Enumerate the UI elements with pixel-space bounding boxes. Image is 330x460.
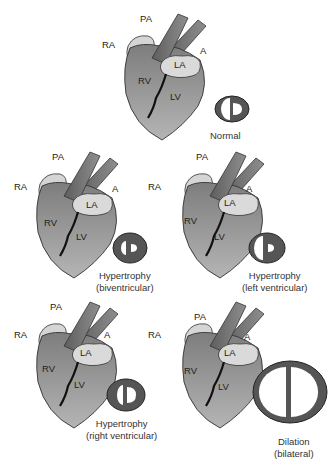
caption-biventricular: Hypertrophy(biventricular) bbox=[96, 270, 154, 294]
panel-dilation: PA RA A LA RV LV Dilation(bilateral) bbox=[170, 298, 330, 458]
cross-section-normal bbox=[212, 94, 252, 124]
heart-diagram-normal bbox=[112, 14, 222, 144]
caption-dilation: Dilation(bilateral) bbox=[274, 436, 314, 460]
cross-section-right bbox=[106, 378, 146, 412]
label-lv: LV bbox=[218, 382, 229, 392]
label-pa: PA bbox=[140, 14, 152, 24]
label-a: A bbox=[244, 332, 250, 342]
label-a: A bbox=[104, 330, 110, 340]
label-lv: LV bbox=[76, 232, 87, 242]
label-lv: LV bbox=[170, 92, 181, 102]
caption-left: Hypertrophy(left ventricular) bbox=[242, 270, 307, 294]
label-pa: PA bbox=[50, 302, 62, 312]
label-lv: LV bbox=[74, 380, 85, 390]
caption-right: Hypertrophy(right ventricular) bbox=[86, 418, 157, 442]
label-rv: RV bbox=[184, 366, 197, 376]
panel-hypertrophy-biventricular: PA RA A LA RV LV Hypertrophy(biventricul… bbox=[24, 148, 174, 288]
label-la: LA bbox=[86, 200, 98, 210]
label-la: LA bbox=[174, 60, 186, 70]
label-la: LA bbox=[224, 348, 236, 358]
label-rv: RV bbox=[42, 364, 55, 374]
label-la: LA bbox=[224, 198, 236, 208]
label-rv: RV bbox=[138, 76, 151, 86]
panel-hypertrophy-right: PA RA A LA RV LV Hypertrophy(right ventr… bbox=[24, 298, 174, 448]
heart-diagram-right bbox=[24, 302, 134, 432]
label-ra: RA bbox=[148, 182, 161, 192]
label-la: LA bbox=[80, 348, 92, 358]
cross-section-biventricular bbox=[112, 232, 148, 264]
label-ra: RA bbox=[148, 330, 161, 340]
label-ra: RA bbox=[14, 330, 27, 340]
label-lv: LV bbox=[214, 232, 225, 242]
label-pa: PA bbox=[196, 152, 208, 162]
label-rv: RV bbox=[44, 218, 57, 228]
cross-section-dilation bbox=[252, 360, 328, 424]
panel-normal: PA RA A LA RV LV Normal bbox=[112, 10, 312, 140]
label-pa: PA bbox=[52, 152, 64, 162]
caption-normal: Normal bbox=[210, 130, 241, 142]
panel-hypertrophy-left: PA RA A LA RV LV Hypertrophy(left ventri… bbox=[170, 148, 320, 288]
label-rv: RV bbox=[184, 216, 197, 226]
label-ra: RA bbox=[102, 40, 115, 50]
label-pa: PA bbox=[194, 312, 206, 322]
label-ra: RA bbox=[14, 182, 27, 192]
label-a: A bbox=[112, 184, 118, 194]
label-a: A bbox=[246, 184, 252, 194]
cross-section-left bbox=[248, 232, 286, 264]
label-a: A bbox=[200, 46, 206, 56]
